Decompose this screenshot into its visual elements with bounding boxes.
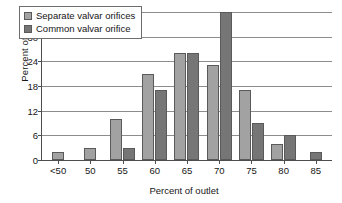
x-tick-label: 80 bbox=[278, 165, 289, 176]
x-tick-label: 85 bbox=[311, 165, 322, 176]
x-tick-label: 50 bbox=[85, 165, 96, 176]
bar bbox=[187, 53, 199, 160]
bar bbox=[284, 135, 296, 160]
x-tick-mark bbox=[187, 160, 188, 164]
x-tick-mark bbox=[251, 160, 252, 164]
bar bbox=[239, 90, 251, 160]
bar bbox=[52, 152, 64, 160]
y-tick-mark bbox=[38, 160, 42, 161]
bar bbox=[84, 148, 96, 160]
legend-item-common: Common valvar orifice bbox=[24, 23, 135, 35]
x-tick-mark bbox=[155, 160, 156, 164]
x-tick-mark bbox=[123, 160, 124, 164]
bar-group bbox=[268, 12, 300, 160]
legend: Separate valvar orifices Common valvar o… bbox=[19, 6, 142, 39]
bar bbox=[155, 90, 167, 160]
bar-chart-figure: Percent of cases Percent of outlet 06121… bbox=[0, 0, 342, 203]
bar bbox=[142, 74, 154, 160]
y-tick-label: 0 bbox=[33, 155, 38, 166]
legend-swatch-separate-icon bbox=[24, 12, 32, 20]
legend-label-separate: Separate valvar orifices bbox=[36, 10, 135, 22]
bar bbox=[123, 148, 135, 160]
y-tick-label: 18 bbox=[27, 81, 38, 92]
x-tick-mark bbox=[58, 160, 59, 164]
x-tick-label: 60 bbox=[149, 165, 160, 176]
x-tick-mark bbox=[284, 160, 285, 164]
x-axis-label: Percent of outlet bbox=[34, 185, 334, 196]
legend-item-separate: Separate valvar orifices bbox=[24, 10, 135, 22]
bar-group bbox=[203, 12, 235, 160]
bar bbox=[271, 144, 283, 160]
bar-group bbox=[235, 12, 267, 160]
legend-label-common: Common valvar orifice bbox=[36, 23, 131, 35]
x-tick-label: 55 bbox=[117, 165, 128, 176]
y-tick-label: 24 bbox=[27, 56, 38, 67]
bar bbox=[174, 53, 186, 160]
x-tick-mark bbox=[316, 160, 317, 164]
x-tick-mark bbox=[219, 160, 220, 164]
bar bbox=[310, 152, 322, 160]
bar bbox=[110, 119, 122, 160]
legend-swatch-common-icon bbox=[24, 25, 32, 33]
y-tick-label: 12 bbox=[27, 105, 38, 116]
bar bbox=[252, 123, 264, 160]
bar-group bbox=[300, 12, 332, 160]
bar bbox=[220, 12, 232, 160]
x-tick-label: 75 bbox=[246, 165, 257, 176]
x-tick-label: <50 bbox=[50, 165, 66, 176]
x-tick-label: 70 bbox=[214, 165, 225, 176]
bar-group bbox=[139, 12, 171, 160]
x-tick-mark bbox=[90, 160, 91, 164]
bar-group bbox=[171, 12, 203, 160]
y-tick-label: 6 bbox=[33, 130, 38, 141]
x-tick-label: 65 bbox=[182, 165, 193, 176]
bar bbox=[207, 65, 219, 160]
